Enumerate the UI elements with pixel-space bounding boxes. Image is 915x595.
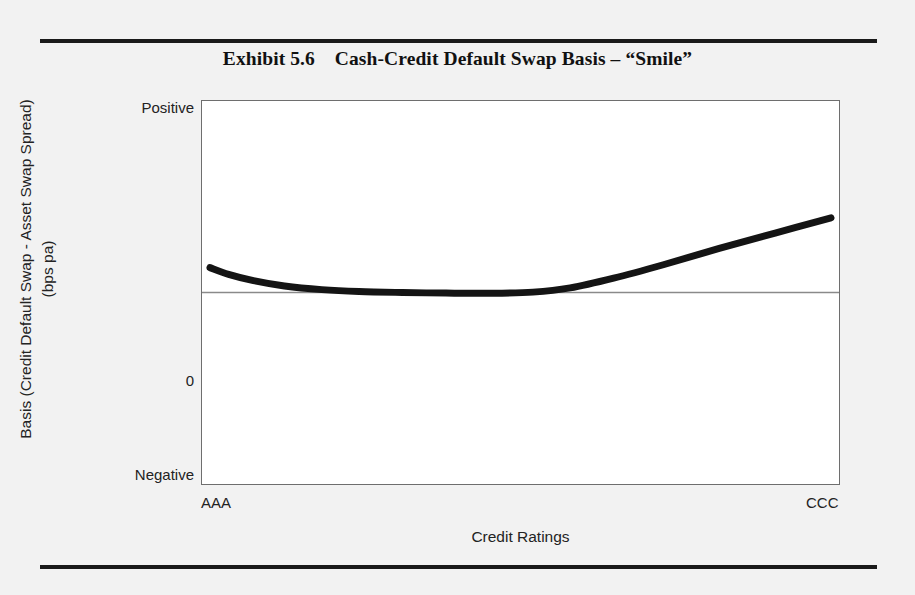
x-tick-label-aaa: AAA xyxy=(201,494,231,511)
y-tick-label-positive: Positive xyxy=(141,99,194,116)
y-axis-tick-group: Positive 0 Negative xyxy=(80,0,194,595)
x-tick-label-ccc: CCC xyxy=(806,494,839,511)
y-tick-label-negative: Negative xyxy=(135,466,194,483)
basis-smile-curve xyxy=(210,218,831,294)
y-axis-title: Basis (Credit Default Swap - Asset Swap … xyxy=(15,59,59,479)
y-axis-title-line-2: (bps pa) xyxy=(37,59,59,479)
y-axis-title-line-1: Basis (Credit Default Swap - Asset Swap … xyxy=(17,99,34,438)
bottom-divider-rule xyxy=(40,565,877,569)
plot-area xyxy=(201,100,840,485)
y-tick-label-zero: 0 xyxy=(186,372,194,389)
x-axis-title: Credit Ratings xyxy=(201,528,840,546)
plot-svg xyxy=(202,101,839,484)
exhibit-figure: Exhibit 5.6 Cash-Credit Default Swap Bas… xyxy=(0,0,915,595)
